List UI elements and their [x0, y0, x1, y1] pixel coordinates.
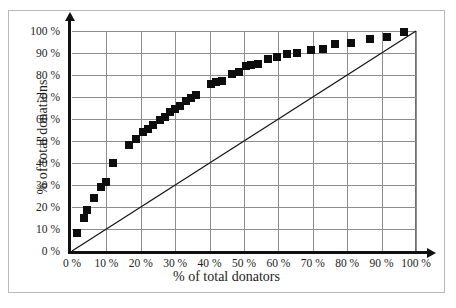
y-axis-tick-label: 10 %	[36, 223, 60, 235]
y-axis-tick-label: 60 %	[36, 113, 60, 125]
x-axis-tick-label: 90 %	[370, 257, 394, 269]
x-axis-tick-label: 30 %	[163, 257, 187, 269]
data-point-marker	[331, 40, 339, 48]
figure-frame: % of total donations % of total donators…	[8, 10, 445, 293]
data-point-marker	[109, 159, 117, 167]
x-axis-line	[68, 251, 428, 254]
x-axis-tick-label: 10 %	[94, 257, 118, 269]
x-axis-tick-label: 80 %	[335, 257, 359, 269]
data-point-marker	[383, 33, 391, 41]
y-axis-tick-label: 0 %	[42, 245, 60, 257]
data-point-marker	[83, 206, 91, 214]
x-axis-tick-label: 60 %	[266, 257, 290, 269]
data-point-marker	[366, 35, 374, 43]
data-point-marker	[273, 53, 281, 61]
gridline-vertical	[416, 31, 417, 251]
y-axis-tick-label: 100 %	[30, 25, 60, 37]
data-point-marker	[90, 194, 98, 202]
y-axis-tick-label: 50 %	[36, 135, 60, 147]
data-point-marker	[254, 60, 262, 68]
data-point-marker	[283, 50, 291, 58]
data-point-marker	[307, 46, 315, 54]
data-point-marker	[264, 55, 272, 63]
data-point-marker	[192, 91, 200, 99]
data-point-marker	[400, 28, 408, 36]
data-point-marker	[102, 178, 110, 186]
data-point-marker	[293, 49, 301, 57]
data-point-marker	[347, 39, 355, 47]
data-point-marker	[73, 229, 81, 237]
figure-caption	[0, 298, 456, 307]
y-axis-tick-label: 30 %	[36, 179, 60, 191]
data-point-marker	[319, 45, 327, 53]
x-axis-tick-label: 100 %	[401, 257, 431, 269]
plot-area: 0 %10 %20 %30 %40 %50 %60 %70 %80 %90 %1…	[72, 31, 416, 251]
x-axis-tick-label: 20 %	[129, 257, 153, 269]
y-axis-line	[68, 19, 71, 251]
data-point-marker	[80, 214, 88, 222]
x-axis-tick-label: 50 %	[232, 257, 256, 269]
x-axis-title: % of total donators	[9, 269, 444, 285]
y-axis-tick-label: 90 %	[36, 47, 60, 59]
y-axis-tick-label: 80 %	[36, 69, 60, 81]
x-axis-tick-label: 0 %	[63, 257, 81, 269]
x-axis-tick-label: 40 %	[198, 257, 222, 269]
data-point-marker	[218, 77, 226, 85]
x-axis-tick-label: 70 %	[301, 257, 325, 269]
y-axis-tick-label: 40 %	[36, 157, 60, 169]
y-axis-tick-label: 20 %	[36, 201, 60, 213]
y-axis-tick-label: 70 %	[36, 91, 60, 103]
